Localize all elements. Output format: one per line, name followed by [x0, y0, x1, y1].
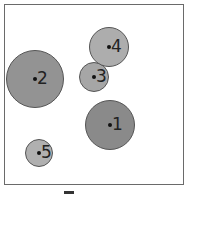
circle-label: 3 — [96, 68, 107, 85]
bottom-caption-fragment — [64, 191, 74, 194]
circle-label: 2 — [37, 70, 48, 87]
circle-label: 4 — [111, 38, 122, 55]
circle-label: 5 — [41, 144, 52, 161]
circle-label: 1 — [112, 116, 123, 133]
